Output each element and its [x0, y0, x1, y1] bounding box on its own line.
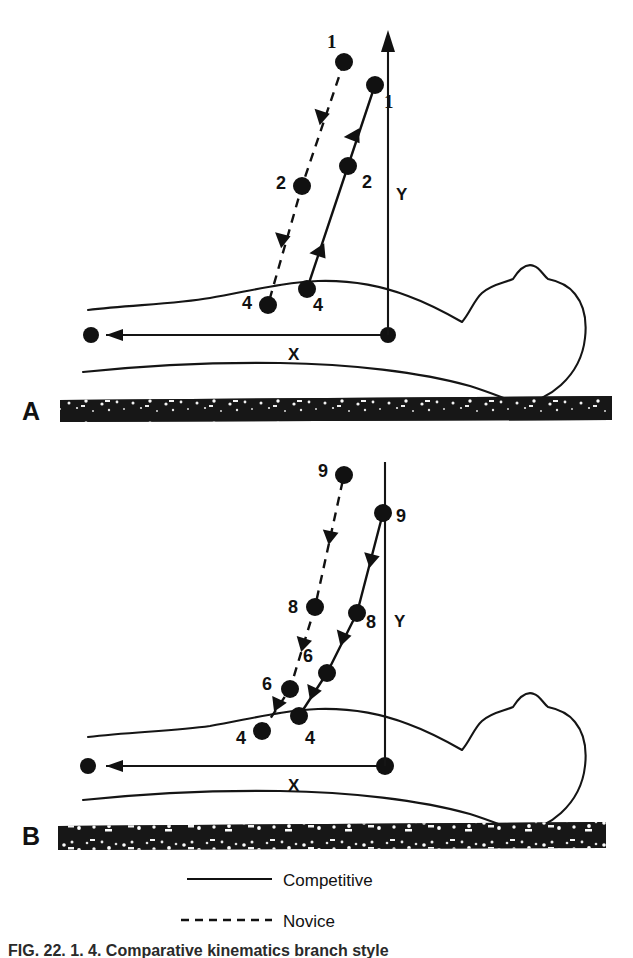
- label-novice-b-4: 4: [236, 728, 246, 748]
- figure-canvas: A X Y 1 2 4: [0, 0, 633, 958]
- axis-y-label-a: Y: [396, 185, 408, 204]
- marker-competitive-a-1: [366, 76, 384, 94]
- axis-x-label-a: X: [288, 345, 300, 364]
- axis-y-label-b: Y: [394, 612, 406, 631]
- panel-a-letter: A: [22, 397, 40, 425]
- marker-novice-a-2: [293, 177, 311, 195]
- legend-label-novice: Novice: [283, 912, 335, 931]
- legend-entry-competitive: Competitive: [187, 871, 373, 890]
- panel-b: B X Y 4 6: [22, 461, 606, 850]
- marker-competitive-b-4: [290, 707, 308, 725]
- axis-x-origin-dot-b: [80, 758, 96, 774]
- label-novice-a-4: 4: [242, 293, 252, 313]
- label-competitive-a-2: 2: [362, 172, 372, 192]
- label-competitive-a-1: 1: [384, 91, 394, 112]
- label-novice-b-9: 9: [318, 461, 328, 481]
- label-novice-a-1: 1: [327, 31, 337, 52]
- platform-bar-a-texture: [60, 396, 612, 422]
- marker-novice-b-9: [335, 466, 353, 484]
- marker-novice-a-1: [335, 53, 353, 71]
- label-competitive-b-8: 8: [366, 612, 376, 632]
- label-competitive-b-9: 9: [396, 506, 406, 526]
- label-competitive-a-4: 4: [313, 295, 323, 315]
- axis-x-arrowhead-a: [106, 329, 123, 341]
- label-novice-a-2: 2: [276, 173, 286, 193]
- marker-novice-b-4: [253, 722, 271, 740]
- trajectory-novice-a: 1 2 4: [242, 31, 353, 314]
- marker-competitive-b-9: [374, 504, 392, 522]
- trajectory-novice-b: 4 6 8 9: [236, 461, 353, 748]
- trajectory-novice-line-b: [262, 475, 344, 731]
- axis-x-arrowhead-b: [106, 760, 123, 772]
- axis-x-origin-dot-a: [83, 327, 99, 343]
- marker-competitive-a-2: [339, 157, 357, 175]
- panel-b-letter: B: [22, 822, 40, 850]
- panel-a: A X Y 1 2 4: [22, 30, 612, 425]
- trajectory-competitive-b: 4 6 8 9: [290, 504, 406, 748]
- legend-entry-novice: Novice: [181, 912, 335, 931]
- legend-label-competitive: Competitive: [283, 871, 373, 890]
- trajectory-arrow-competitive-b3: [361, 552, 380, 569]
- trajectory-arrow-competitive-a2: [309, 240, 329, 259]
- label-novice-b-6: 6: [262, 674, 272, 694]
- label-competitive-b-6: 6: [303, 646, 313, 666]
- marker-novice-b-8: [306, 598, 324, 616]
- marker-novice-a-4: [259, 296, 277, 314]
- marker-competitive-b-8: [348, 604, 366, 622]
- axis-y-arrowhead-a: [381, 30, 395, 52]
- swimmer-outline-b: [88, 693, 586, 832]
- trajectory-competitive-a: 1 2 4: [298, 76, 394, 315]
- trajectory-arrow-novice-b3: [320, 530, 339, 547]
- platform-bar-b-texture: [58, 822, 606, 850]
- figure-legend: Competitive Novice: [181, 871, 373, 931]
- marker-competitive-b-6: [318, 664, 336, 682]
- label-competitive-b-4: 4: [305, 728, 315, 748]
- label-novice-b-8: 8: [288, 597, 298, 617]
- marker-novice-b-6: [281, 680, 299, 698]
- figure-caption-text: FIG. 22. 1. 4. Comparative kinematics br…: [8, 942, 389, 958]
- figure-caption: FIG. 22. 1. 4. Comparative kinematics br…: [8, 942, 389, 958]
- axis-x-label-b: X: [288, 776, 300, 795]
- figure-root: A X Y 1 2 4: [0, 0, 633, 958]
